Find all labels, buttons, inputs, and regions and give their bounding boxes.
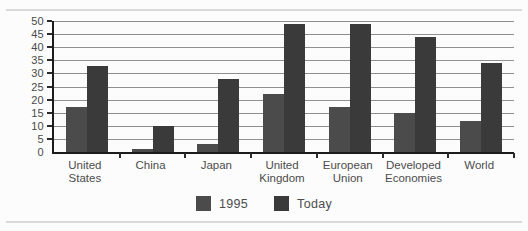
y-axis-tick xyxy=(47,33,52,35)
y-axis-tick-label: 10 xyxy=(14,121,44,132)
y-axis-tick-label: 25 xyxy=(14,82,44,93)
bar-group xyxy=(448,21,514,152)
bar-1995 xyxy=(329,107,350,152)
bar-today xyxy=(350,24,371,152)
bar-today xyxy=(284,24,305,152)
legend-item: Today xyxy=(274,196,332,211)
bar-1995 xyxy=(394,113,415,152)
y-axis-tick xyxy=(47,138,52,140)
y-axis-tick-label: 45 xyxy=(14,29,44,40)
x-axis-tick xyxy=(250,153,252,158)
legend-item: 1995 xyxy=(196,196,248,211)
y-axis-tick xyxy=(47,46,52,48)
y-axis-tick-label: 50 xyxy=(14,16,44,27)
plot-area xyxy=(52,21,514,154)
y-axis-tick-label: 20 xyxy=(14,95,44,106)
x-axis-category-labels: United StatesChinaJapanUnited KingdomEur… xyxy=(52,159,512,185)
y-axis-tick xyxy=(47,112,52,114)
legend-label: 1995 xyxy=(219,197,248,211)
x-axis-category-label: Developed Economies xyxy=(381,159,447,185)
legend-label: Today xyxy=(297,197,332,211)
y-axis-tick-label: 15 xyxy=(14,108,44,119)
bar-today xyxy=(218,79,239,152)
legend-swatch xyxy=(196,196,211,211)
bar-group xyxy=(54,21,120,152)
x-axis-tick xyxy=(316,153,318,158)
bar-today xyxy=(415,37,436,152)
y-axis-tick xyxy=(47,20,52,22)
bar-1995 xyxy=(66,107,87,152)
x-axis-tick xyxy=(382,153,384,158)
y-axis-tick xyxy=(47,86,52,88)
x-axis-category-label: United Kingdom xyxy=(249,159,315,185)
y-axis-tick xyxy=(47,72,52,74)
bar-today xyxy=(481,63,502,152)
y-axis-tick-label: 35 xyxy=(14,55,44,66)
bottom-divider xyxy=(6,221,522,223)
bar-group xyxy=(120,21,186,152)
bar-1995 xyxy=(460,121,481,152)
y-axis-tick xyxy=(47,125,52,127)
x-axis-tick xyxy=(513,153,515,158)
x-axis-tick xyxy=(119,153,121,158)
bar-1995 xyxy=(197,144,218,152)
bar-1995 xyxy=(263,94,284,152)
x-axis-tick xyxy=(184,153,186,158)
bar-group xyxy=(185,21,251,152)
x-axis-tick xyxy=(447,153,449,158)
bar-group xyxy=(317,21,383,152)
chart-legend: 1995Today xyxy=(0,196,528,211)
y-axis-tick-label: 30 xyxy=(14,68,44,79)
y-axis-tick-label: 5 xyxy=(14,134,44,145)
bar-group xyxy=(383,21,449,152)
y-axis-tick-label: 0 xyxy=(14,147,44,158)
legend-swatch xyxy=(274,196,289,211)
y-axis-tick-label: 40 xyxy=(14,42,44,53)
bar-group xyxy=(251,21,317,152)
x-axis-category-label: World xyxy=(446,159,512,185)
x-axis-category-label: United States xyxy=(52,159,118,185)
top-divider xyxy=(6,9,522,11)
bar-1995 xyxy=(132,149,153,152)
bar-groups xyxy=(54,21,514,152)
bar-today xyxy=(87,66,108,152)
y-axis-tick xyxy=(47,59,52,61)
bar-today xyxy=(153,126,174,152)
x-axis-category-label: China xyxy=(118,159,184,185)
x-axis-category-label: European Union xyxy=(315,159,381,185)
chart-figure: 50454035302520151050 United StatesChinaJ… xyxy=(0,0,528,231)
y-axis-tick xyxy=(47,99,52,101)
x-axis-category-label: Japan xyxy=(183,159,249,185)
